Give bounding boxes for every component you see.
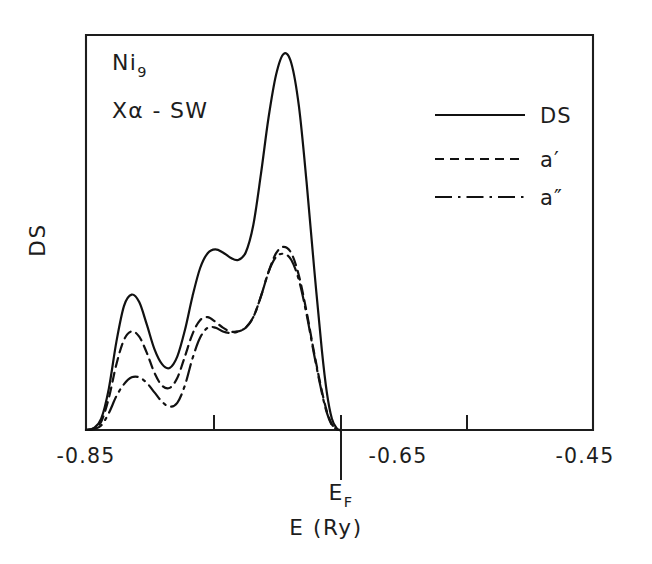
curve-a-prime: [86, 247, 340, 430]
fermi-level-label: EF: [329, 480, 354, 510]
x-axis-ticks: [214, 415, 467, 430]
plot-border: [86, 35, 593, 430]
density-of-states-figure: Ni9 Xα - SW DS a′ a″ -0.85 -0.65 -0.45 E…: [0, 0, 652, 564]
legend-label-a-double-prime: a″: [540, 186, 563, 210]
curve-a-double-prime: [86, 254, 340, 430]
legend-label-a-prime: a′: [540, 148, 560, 172]
y-axis-title: DS: [25, 223, 50, 256]
legend-label-ds: DS: [540, 104, 572, 128]
x-axis-title: E (Ry): [289, 515, 362, 540]
legend: DS a′ a″: [435, 104, 572, 210]
xtick-label-2: -0.65: [368, 444, 427, 468]
system-label: Ni9: [112, 50, 148, 80]
x-axis-tick-labels: -0.85 -0.65 -0.45: [56, 444, 614, 468]
method-label: Xα - SW: [112, 98, 208, 123]
xtick-label-0: -0.85: [56, 444, 115, 468]
xtick-label-4: -0.45: [555, 444, 614, 468]
plot-frame: [86, 35, 593, 430]
plot-annotations: Ni9 Xα - SW: [112, 50, 208, 123]
